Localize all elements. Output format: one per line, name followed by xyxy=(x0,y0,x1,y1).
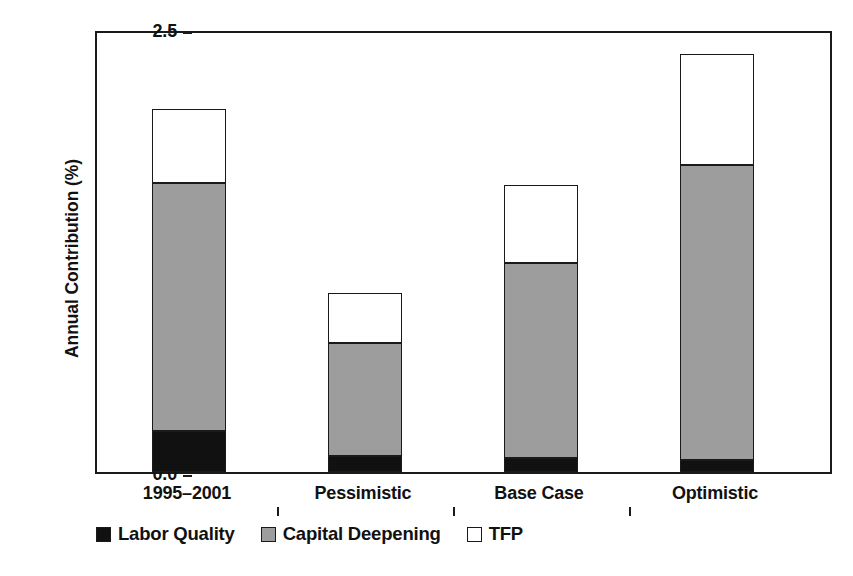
x-axis-category-label: Optimistic xyxy=(615,483,815,504)
y-axis-title: Annual Contribution (%) xyxy=(62,49,83,469)
bar-segment-capital-deepening xyxy=(504,263,578,458)
legend-item-label: TFP xyxy=(489,523,523,545)
bar-group xyxy=(504,29,578,472)
legend-item-label: Capital Deepening xyxy=(283,523,441,545)
bar-segment-capital-deepening xyxy=(680,165,754,459)
bar-segment-tfp xyxy=(680,54,754,166)
chart-legend: Labor QualityCapital DeepeningTFP xyxy=(96,523,523,545)
x-axis-tick-mark xyxy=(453,507,455,516)
x-axis-tick-mark xyxy=(629,507,631,516)
stacked-bar xyxy=(680,54,754,472)
bar-segment-labor-quality xyxy=(680,460,754,472)
bar-group xyxy=(328,29,402,472)
bar-group xyxy=(680,29,754,472)
legend-item: TFP xyxy=(467,523,523,545)
bar-segment-labor-quality xyxy=(152,431,226,472)
legend-swatch-icon xyxy=(261,527,276,542)
x-axis-tick-mark xyxy=(277,507,279,516)
x-axis-category-label: Pessimistic xyxy=(263,483,463,504)
stacked-bar xyxy=(328,293,402,472)
stacked-bar xyxy=(504,185,578,472)
stacked-bar xyxy=(152,109,226,472)
legend-item: Capital Deepening xyxy=(261,523,441,545)
bar-segment-tfp xyxy=(328,293,402,343)
bar-segment-labor-quality xyxy=(504,458,578,472)
plot-area: 0.00.51.01.52.02.5 xyxy=(95,31,832,474)
y-axis-tick-mark xyxy=(183,475,192,477)
stacked-bar-chart: Annual Contribution (%) 0.00.51.01.52.02… xyxy=(0,0,853,576)
x-axis-category-label: 1995–2001 xyxy=(87,483,287,504)
bar-segment-labor-quality xyxy=(328,456,402,472)
legend-swatch-icon xyxy=(96,527,111,542)
bar-segment-tfp xyxy=(152,109,226,183)
legend-item: Labor Quality xyxy=(96,523,235,545)
x-axis-category-label: Base Case xyxy=(439,483,639,504)
legend-item-label: Labor Quality xyxy=(118,523,235,545)
bar-segment-capital-deepening xyxy=(152,183,226,431)
bar-segment-tfp xyxy=(504,185,578,263)
bar-segment-capital-deepening xyxy=(328,343,402,456)
legend-swatch-icon xyxy=(467,527,482,542)
bar-group xyxy=(152,29,226,472)
